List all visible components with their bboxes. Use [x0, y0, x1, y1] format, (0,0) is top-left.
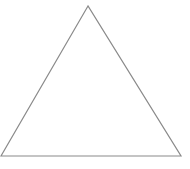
triangle-shape	[1, 6, 181, 156]
triangle-diagram	[0, 0, 190, 169]
